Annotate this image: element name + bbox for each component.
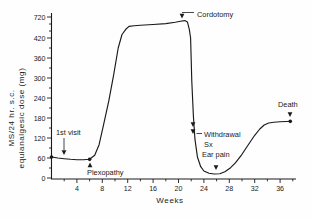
x-tick-label: 16 — [149, 185, 157, 193]
annotation-ear-pain-label: Ear pain — [202, 150, 230, 159]
chart-plot-layer: 7204203603002401801206004812162024283236 — [34, 13, 296, 193]
y-tick-label: 300 — [34, 75, 46, 83]
annotation-arrow-death — [288, 112, 293, 117]
figure-canvas: 7204203603002401801206004812162024283236… — [0, 0, 311, 218]
x-axis-title: Weeks — [156, 196, 183, 205]
annotation-arrow-withdrawal-sx — [191, 122, 196, 127]
y-tick-label: 180 — [34, 115, 46, 123]
annotation-cordotomy-label: Cordotomy — [197, 10, 233, 19]
y-tick-label: 360 — [34, 55, 46, 63]
annotation-withdrawal-label-line2: Sx — [204, 140, 213, 149]
y-tick-label: 60 — [38, 155, 46, 163]
annotation-arrow-ear-pain — [214, 165, 219, 170]
axis-lines — [52, 13, 297, 179]
plexopathy-point — [88, 158, 92, 162]
y-tick-label: 420 — [34, 35, 46, 43]
x-tick-label: 20 — [175, 185, 183, 193]
dose-chart: 7204203603002401801206004812162024283236… — [0, 0, 311, 218]
x-tick-label: 4 — [75, 185, 79, 193]
dose-curve — [52, 21, 291, 174]
first-visit-point — [50, 155, 54, 159]
annotation-arrow-plexopathy — [88, 163, 93, 168]
y-axis-title-line1: MS/24 hr. s.c. — [7, 89, 16, 146]
annotation-withdrawal-label-line1: Withdrawal — [204, 130, 241, 139]
y-tick-label: 120 — [34, 135, 46, 143]
y-tick-label: 240 — [34, 95, 46, 103]
annotation-first-visit-label: 1st visit — [56, 128, 81, 137]
x-tick-label: 12 — [124, 185, 132, 193]
annotation-death-label: Death — [278, 100, 298, 109]
y-tick-label: 0 — [42, 175, 46, 183]
y-tick-label: 720 — [34, 14, 46, 22]
x-tick-label: 8 — [100, 185, 104, 193]
annotation-arrow-cordotomy — [180, 14, 185, 19]
y-axis-title-line2: equianalgesic dose (mg) — [17, 68, 26, 169]
x-tick-label: 36 — [276, 185, 284, 193]
death-point — [288, 120, 292, 124]
x-tick-label: 32 — [251, 185, 259, 193]
x-tick-label: 28 — [225, 185, 233, 193]
annotation-arrow-first-visit — [62, 150, 67, 155]
x-tick-label: 24 — [200, 185, 208, 193]
annotation-plexopathy-label: Plexopathy — [87, 168, 124, 177]
